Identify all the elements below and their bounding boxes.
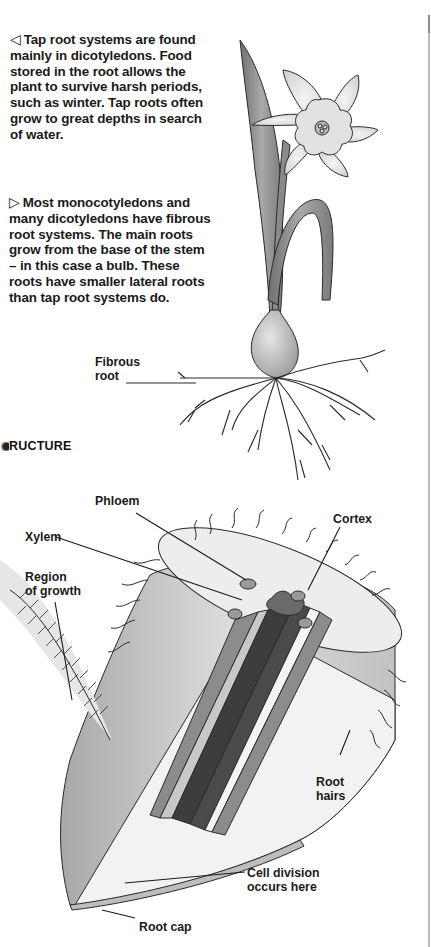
region-of-growth-label: Region of growth	[25, 570, 81, 598]
xylem-label: Xylem	[25, 530, 61, 544]
label-line: occurs here	[247, 880, 319, 894]
label-line: Root	[316, 775, 345, 789]
label-line: root	[95, 369, 140, 383]
cortex-label: Cortex	[333, 512, 372, 526]
cell-division-label: Cell division occurs here	[247, 866, 319, 894]
fibrous-root-label: Fibrous root	[95, 355, 140, 383]
root-hairs-label: Root hairs	[316, 775, 345, 803]
daffodil-illustration	[240, 40, 378, 378]
label-line: Region	[25, 570, 81, 584]
label-line: Cell division	[247, 866, 319, 880]
textbook-page: ◁Tap root systems are found mainly in di…	[0, 0, 431, 947]
phloem-label: Phloem	[95, 494, 139, 508]
section-heading-text: RUCTURE	[9, 439, 72, 453]
label-line: hairs	[316, 789, 345, 803]
bulb-icon	[251, 310, 298, 378]
root-cap-label: Root cap	[139, 920, 192, 934]
arrow-smudge-icon	[0, 442, 9, 451]
illustrations	[0, 0, 431, 947]
phloem-icon	[240, 579, 256, 589]
root-tip-cutaway-illustration	[0, 502, 416, 910]
label-line: of growth	[25, 584, 81, 598]
section-heading: RUCTURE	[0, 439, 72, 453]
label-line: Fibrous	[95, 355, 140, 369]
page-gutter-divider	[428, 15, 430, 947]
